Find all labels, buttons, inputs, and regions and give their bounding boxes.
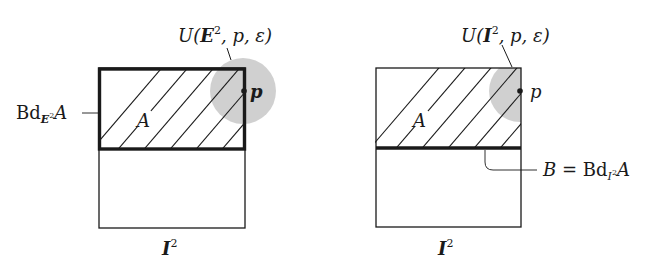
diagram-canvas: U(E2, p, ε) BdE2A A p I2	[0, 0, 649, 277]
right-region-label-A: A	[411, 110, 426, 131]
left-region-label-A: A	[135, 110, 150, 131]
left-panel: U(E2, p, ε) BdE2A A p I2	[16, 24, 360, 259]
right-square-label: I2	[437, 237, 453, 259]
left-boundary-label: BdE2A	[16, 102, 67, 126]
left-point-p	[241, 88, 247, 94]
right-point-p	[517, 88, 523, 94]
left-point-label-p: p	[250, 81, 263, 102]
left-square-label: I2	[161, 237, 177, 259]
right-point-label-p: p	[530, 81, 542, 102]
left-neighborhood-leader	[227, 48, 231, 60]
left-neighborhood-label: U(E2, p, ε)	[178, 24, 272, 46]
right-neighborhood-leader	[502, 45, 512, 67]
right-neighborhood-label: U(I2, p, ε)	[461, 24, 550, 46]
right-boundary-label: B = BdI2A	[542, 159, 630, 183]
right-boundary-leader	[485, 150, 537, 170]
right-panel: U(I2, p, ε) B = BdI2A A p I2	[336, 24, 638, 259]
